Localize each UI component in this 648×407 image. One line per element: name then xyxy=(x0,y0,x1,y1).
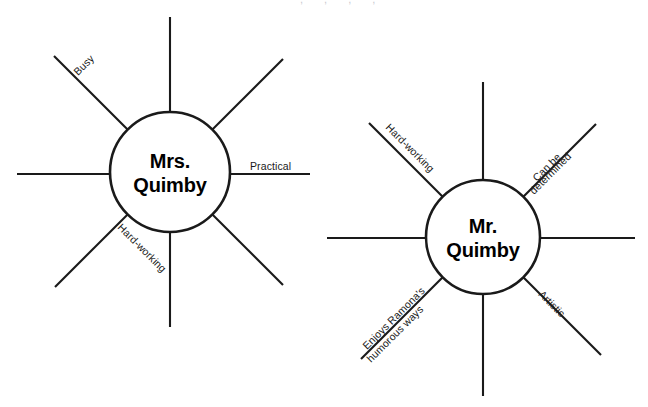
worksheet-canvas: , , , , Mrs. Quimby Busy Practical Hard-… xyxy=(0,0,648,407)
label-hard-working: Hard-working xyxy=(384,121,438,175)
hub-label-line2: Quimby xyxy=(446,239,520,261)
label-practical: Practical xyxy=(250,160,291,172)
character-webs-svg: Mrs. Quimby Busy Practical Hard-working … xyxy=(0,0,648,407)
hub-label-line1: Mrs. xyxy=(150,150,190,172)
mrs-quimby-web: Mrs. Quimby Busy Practical Hard-working xyxy=(17,17,310,327)
spoke-nw xyxy=(54,56,128,130)
hub-circle xyxy=(426,180,540,294)
spoke-ne xyxy=(212,59,283,130)
hub-circle xyxy=(110,112,230,232)
hub-label-line2: Quimby xyxy=(133,174,207,196)
label-busy: Busy xyxy=(71,52,97,78)
spoke-se xyxy=(212,214,283,285)
hub-label-line1: Mr. xyxy=(469,215,497,237)
spoke-sw xyxy=(55,214,128,287)
mr-quimby-web: Mr. Quimby Hard-working Can be determine… xyxy=(327,82,635,396)
label-artistic: Artistic xyxy=(537,288,568,319)
